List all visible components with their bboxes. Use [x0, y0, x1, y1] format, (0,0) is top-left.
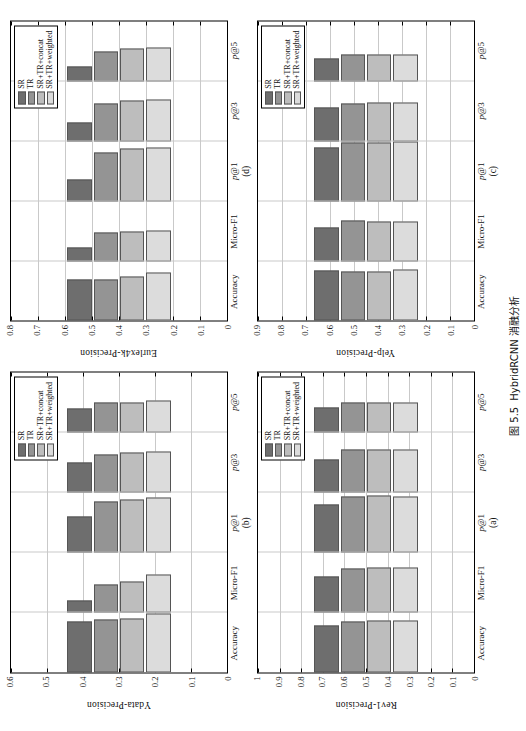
bar-group: [11, 612, 227, 672]
x-tick-label: p@5: [475, 20, 489, 80]
x-tick-label: p@3: [475, 80, 489, 140]
bar: [367, 567, 392, 612]
legend-item: SR: [264, 382, 274, 456]
bar-group: [11, 492, 227, 552]
legend-label: SR+TR+weighted: [293, 382, 301, 440]
bar: [314, 227, 339, 260]
bar: [341, 220, 366, 260]
bar: [314, 147, 339, 201]
y-axis-ticks-b: 00.10.20.30.40.50.6: [10, 673, 228, 698]
panel-grid: Ydata-Precision00.10.20.30.40.50.6SRTRSR…: [0, 0, 500, 731]
bar: [314, 58, 339, 81]
y-tick-label: 0.5: [349, 325, 359, 336]
panel-letter-d: (d): [241, 20, 251, 322]
bar: [120, 402, 145, 432]
bar-row: [94, 141, 119, 201]
y-tick-label: 0.4: [383, 676, 393, 687]
bar: [146, 613, 171, 672]
bar-row: [120, 372, 145, 432]
axis-tick-mark: [474, 317, 475, 321]
bar-row: [367, 612, 392, 672]
legend-label: TR: [274, 78, 282, 88]
y-tick-label: 0.8: [276, 325, 286, 336]
legend-item: SR: [17, 30, 27, 104]
bar-row: [314, 81, 339, 141]
bar: [146, 272, 171, 321]
legend-swatch: [28, 443, 36, 456]
bar: [120, 452, 145, 492]
y-axis-label-a: Rev1-Precision: [257, 698, 475, 711]
bar-row: [94, 201, 119, 261]
y-axis-ticks-c: 00.10.20.30.40.50.60.70.80.9: [257, 322, 475, 347]
y-axis-label-b: Ydata-Precision: [10, 698, 228, 711]
bar-row: [120, 21, 145, 81]
bar-group: [11, 552, 227, 612]
bar-row: [94, 81, 119, 141]
bar-row: [314, 492, 339, 552]
legend-label: SR+TR+concat: [37, 38, 45, 88]
legend-label: TR: [27, 78, 35, 88]
y-tick-label: 0.1: [446, 325, 456, 336]
y-tick-label: 0.7: [317, 676, 327, 687]
bar: [314, 459, 339, 493]
legend-item: SR: [17, 382, 27, 456]
bar: [367, 102, 392, 141]
y-tick-label: 0.6: [5, 676, 15, 687]
bar-row: [146, 492, 171, 552]
bar: [393, 269, 418, 321]
legend-swatch: [37, 443, 45, 456]
bar: [367, 620, 392, 672]
bar: [67, 279, 92, 321]
bar-group: [258, 201, 474, 261]
bar: [146, 147, 171, 201]
bar: [120, 48, 145, 81]
bar-row: [120, 612, 145, 672]
bar-group: [258, 552, 474, 612]
bar: [367, 142, 392, 201]
x-axis-labels-b: AccuracyMicro-F1p@1p@3p@5: [228, 372, 242, 674]
x-tick-label: Accuracy: [475, 613, 489, 673]
y-tick-label: 0: [470, 325, 480, 329]
bar: [393, 221, 418, 260]
chart-panel-a: Rev1-Precision00.10.20.30.40.50.60.70.80…: [253, 366, 500, 718]
x-tick-label: p@1: [228, 141, 242, 201]
bar-row: [146, 432, 171, 492]
plot-area-b: SRTRSR+TR+concatSR+TR+weighted: [10, 372, 228, 674]
bar: [120, 148, 145, 200]
y-tick-label: 0.5: [41, 676, 51, 687]
bar: [393, 141, 418, 201]
bar: [393, 496, 418, 552]
legend-swatch: [275, 443, 283, 456]
bar: [393, 567, 418, 613]
bar: [341, 402, 366, 432]
bar-row: [94, 432, 119, 492]
axis-tick-mark: [227, 373, 228, 377]
y-tick-label: 0.5: [361, 676, 371, 687]
axis-tick-mark: [227, 668, 228, 672]
bar-row: [67, 21, 92, 81]
legend-item: SR: [264, 30, 274, 104]
bar: [393, 102, 418, 141]
bar: [146, 47, 171, 81]
bar: [341, 271, 366, 321]
bar-row: [341, 612, 366, 672]
figure-container: Ydata-Precision00.10.20.30.40.50.6SRTRSR…: [0, 0, 526, 731]
bar-row: [341, 261, 366, 321]
bar: [146, 451, 171, 492]
bar: [314, 504, 339, 552]
legend-item: SR+TR+concat: [36, 30, 46, 104]
bar-row: [146, 201, 171, 261]
bar-row: [120, 201, 145, 261]
axis-tick-mark: [474, 668, 475, 672]
bar-row: [94, 492, 119, 552]
bar-row: [314, 201, 339, 261]
bar: [314, 270, 339, 321]
bar: [367, 271, 392, 321]
x-tick-label: p@3: [475, 432, 489, 492]
y-tick-label: 0: [470, 676, 480, 680]
x-tick-label: Micro-F1: [228, 201, 242, 261]
x-axis-labels-d: AccuracyMicro-F1p@1p@3p@5: [228, 20, 242, 322]
y-tick-label: 1: [252, 676, 262, 680]
x-tick-label: Accuracy: [228, 613, 242, 673]
bar: [341, 449, 366, 492]
